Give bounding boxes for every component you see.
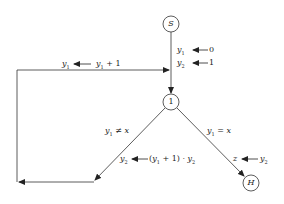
op: = bbox=[215, 126, 227, 135]
start-node-label: S bbox=[163, 19, 179, 29]
loop-increment-rhs: y1 + 1 bbox=[96, 59, 121, 72]
subscript: 2 bbox=[125, 159, 128, 165]
subscript: 1 bbox=[182, 50, 185, 56]
mid: + 1) · bbox=[160, 154, 188, 163]
subscript: 1 bbox=[67, 64, 70, 70]
update-lhs: y2 bbox=[120, 154, 128, 167]
update-rhs: (y1 + 1) · y2 bbox=[149, 154, 195, 167]
subscript: 2 bbox=[182, 63, 185, 69]
halt-node-label: H bbox=[243, 178, 259, 188]
rhs: x bbox=[125, 126, 130, 135]
rest: + 1 bbox=[104, 59, 121, 68]
subscript2: 2 bbox=[192, 159, 195, 165]
loop-increment-lhs: y1 bbox=[62, 59, 70, 72]
rhs: x bbox=[227, 126, 232, 135]
output-rhs: y2 bbox=[260, 154, 268, 167]
init-y2-assignment: y2 bbox=[177, 58, 185, 71]
flowchart-canvas bbox=[0, 0, 284, 204]
output-lhs: z bbox=[233, 154, 237, 164]
op: ≠ bbox=[113, 126, 125, 135]
init-y1-assignment: y1 bbox=[177, 45, 185, 58]
condition-equal: y1 = x bbox=[207, 126, 231, 139]
edge-decision-to-loop bbox=[95, 108, 165, 180]
init-y2-value: 1 bbox=[209, 58, 214, 68]
decision-node-label: 1 bbox=[163, 97, 179, 107]
subscript: 2 bbox=[265, 159, 268, 165]
condition-not-equal: y1 ≠ x bbox=[105, 126, 129, 139]
init-y1-value: 0 bbox=[209, 45, 214, 55]
